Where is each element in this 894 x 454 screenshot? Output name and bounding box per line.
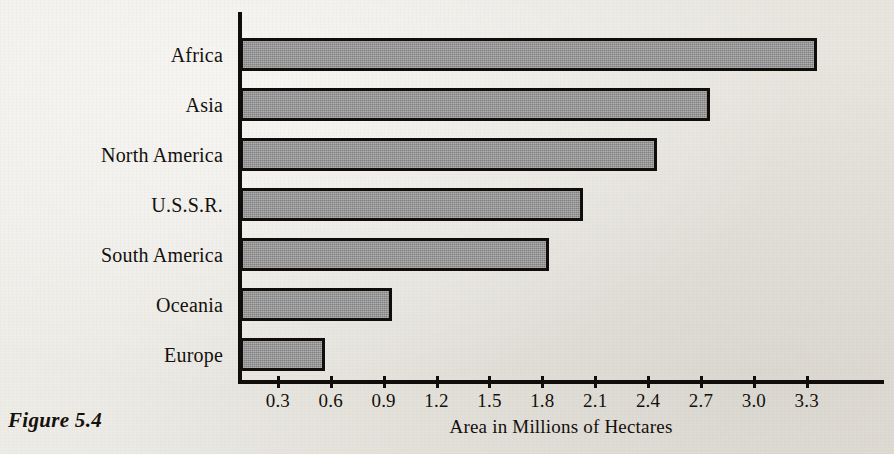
bar (240, 38, 817, 71)
x-axis-tick-label: 1.2 (410, 389, 464, 412)
x-axis-tick-label: 1.8 (515, 389, 569, 412)
x-axis-tick-label: 2.7 (674, 389, 728, 412)
bar (240, 338, 325, 371)
category-label: South America (101, 238, 232, 271)
bar (240, 138, 657, 171)
x-axis-tick (436, 376, 439, 388)
x-axis-tick-label: 2.4 (621, 389, 675, 412)
category-label: Asia (186, 88, 232, 121)
category-label: Europe (164, 338, 232, 371)
x-axis-line (238, 380, 884, 384)
x-axis-tick-label: 2.1 (568, 389, 622, 412)
category-label: Oceania (156, 288, 232, 321)
x-axis-tick (277, 376, 280, 388)
category-label: North America (101, 138, 232, 171)
bar (240, 288, 392, 321)
x-axis-tick-label: 0.6 (304, 389, 358, 412)
bar (240, 188, 583, 221)
bar-chart-figure: 0.30.60.91.21.51.82.12.42.73.03.3 Africa… (0, 0, 894, 454)
figure-caption: Figure 5.4 (8, 408, 102, 433)
category-label: U.S.S.R. (151, 188, 232, 221)
x-axis-tick (330, 376, 333, 388)
x-axis-tick-label: 1.5 (462, 389, 516, 412)
x-axis-tick (806, 376, 809, 388)
bar (240, 88, 710, 121)
x-axis-tick (700, 376, 703, 388)
x-axis-tick (594, 376, 597, 388)
x-axis-tick-label: 0.3 (251, 389, 305, 412)
x-axis-tick-label: 3.0 (727, 389, 781, 412)
bar (240, 238, 549, 271)
x-axis-tick (383, 376, 386, 388)
category-label: Africa (171, 38, 232, 71)
x-axis-tick-label: 3.3 (780, 389, 834, 412)
x-axis-label: Area in Millions of Hectares (238, 416, 884, 438)
x-axis-tick (647, 376, 650, 388)
x-axis-tick (541, 376, 544, 388)
x-axis-tick (488, 376, 491, 388)
x-axis-tick (753, 376, 756, 388)
x-axis-tick-label: 0.9 (357, 389, 411, 412)
